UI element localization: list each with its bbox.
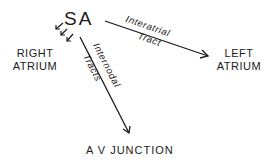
left-atrium-label: LEFT ATRIUM — [214, 47, 264, 73]
sa-node-label: SA — [64, 9, 93, 29]
av-junction-label: A V JUNCTION — [86, 144, 174, 157]
right-atrium-label: RIGHT ATRIUM — [12, 47, 58, 73]
left-atrium-line1: LEFT — [214, 47, 264, 60]
right-atrium-line2: ATRIUM — [12, 60, 58, 73]
right-atrium-line1: RIGHT — [12, 47, 58, 60]
left-atrium-line2: ATRIUM — [214, 60, 264, 73]
conduction-diagram: SA RIGHT ATRIUM LEFT ATRIUM A V JUNCTION… — [0, 0, 275, 162]
